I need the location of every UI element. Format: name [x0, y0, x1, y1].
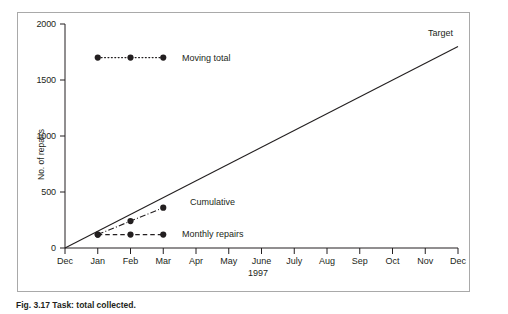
data-point	[160, 232, 166, 238]
y-tick-label-1000: 1000	[22, 131, 56, 141]
figure-container: No. of repairs 0 500 1000 1500 2000 Dec …	[0, 0, 508, 314]
x-tick-label-sep: Sep	[343, 256, 377, 266]
y-tick-label-2000: 2000	[22, 19, 56, 29]
x-tick-label-may: May	[212, 256, 246, 266]
data-point	[160, 55, 166, 61]
y-tick-label-0: 0	[22, 243, 56, 253]
series-label-cumulative: Cumulative	[190, 197, 235, 207]
x-tick-label-nov: Nov	[408, 256, 442, 266]
x-tick-label-dec-end: Dec	[441, 256, 475, 266]
x-tick-label-mar: Mar	[146, 256, 180, 266]
x-tick-label-feb: Feb	[114, 256, 148, 266]
x-tick-label-oct: Oct	[376, 256, 410, 266]
data-point	[127, 232, 133, 238]
x-tick-label-dec-start: Dec	[48, 256, 82, 266]
data-point	[95, 232, 101, 238]
x-tick-label-july: July	[277, 256, 311, 266]
data-point	[95, 55, 101, 61]
figure-caption: Fig. 3.17 Task: total collected.	[16, 300, 136, 310]
chart-plot-area	[0, 0, 508, 314]
series-label-monthly-repairs: Monthly repairs	[182, 229, 244, 239]
x-axis-year-label: 1997	[248, 268, 268, 278]
series-label-moving-total: Moving total	[182, 53, 231, 63]
data-point	[160, 205, 166, 211]
data-point	[127, 55, 133, 61]
x-tick-label-aug: Aug	[310, 256, 344, 266]
data-point	[127, 218, 133, 224]
series-label-target: Target	[428, 28, 453, 38]
y-tick-label-1500: 1500	[22, 75, 56, 85]
y-tick-label-500: 500	[22, 187, 56, 197]
x-tick-label-june: June	[245, 256, 279, 266]
x-tick-label-apr: Apr	[179, 256, 213, 266]
x-tick-label-jan: Jan	[81, 256, 115, 266]
series-line-target	[65, 46, 458, 248]
